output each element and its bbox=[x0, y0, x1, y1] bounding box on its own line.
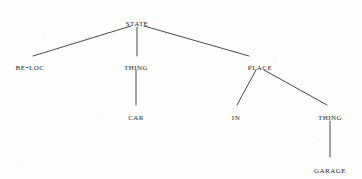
tree-node-thing-right: THING bbox=[318, 112, 342, 123]
tree-edge-place-in bbox=[237, 70, 256, 105]
tree-edge-state-place bbox=[144, 26, 249, 56]
tree-node-place: PLACE bbox=[248, 62, 272, 73]
beloc-head: BE bbox=[16, 62, 26, 72]
beloc-tail: loc bbox=[29, 62, 44, 72]
tree-node-thing-left: THING bbox=[124, 62, 148, 73]
tree-edge-place-thing-right bbox=[264, 70, 327, 105]
tree-node-be-loc: BE-loc bbox=[16, 62, 45, 73]
tree-edges bbox=[33, 26, 330, 157]
tree-edge-layer bbox=[0, 0, 362, 179]
tree-edge-state-beloc bbox=[33, 26, 131, 56]
tree-node-in: IN bbox=[232, 112, 240, 123]
tree-node-garage: GARAGE bbox=[314, 165, 346, 176]
tree-node-state: STATE bbox=[126, 18, 149, 29]
semantic-tree-diagram: STATEBE-locTHINGPLACECARINTHINGGARAGE bbox=[0, 0, 362, 179]
tree-node-car: CAR bbox=[128, 112, 144, 123]
